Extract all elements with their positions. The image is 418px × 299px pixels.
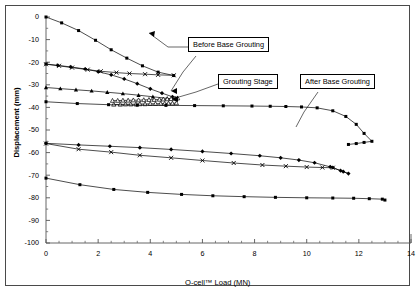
data-point xyxy=(109,73,113,77)
series-after xyxy=(45,177,387,202)
data-point xyxy=(136,104,139,107)
data-point xyxy=(110,48,113,51)
x-tick-label: 4 xyxy=(136,249,164,258)
series-after xyxy=(44,142,335,170)
data-point xyxy=(355,123,358,126)
data-point xyxy=(122,77,126,81)
series-line xyxy=(46,102,372,145)
data-point xyxy=(148,87,152,91)
data-point xyxy=(344,115,347,118)
data-point xyxy=(229,151,233,155)
data-point xyxy=(200,149,204,153)
data-point xyxy=(305,196,308,199)
series-before xyxy=(44,85,179,101)
data-point xyxy=(107,103,110,106)
data-point xyxy=(250,105,253,108)
x-tick-label: 0 xyxy=(32,249,60,258)
series-before xyxy=(44,62,175,99)
data-point xyxy=(363,141,366,144)
data-point xyxy=(352,197,355,200)
y-tick-label: -70 xyxy=(0,171,39,180)
x-axis-title: O-cell™ Load (MN) xyxy=(185,278,250,287)
x-tick-label: 14 xyxy=(397,249,418,258)
data-point xyxy=(125,57,128,60)
data-point xyxy=(284,105,287,108)
data-point xyxy=(60,21,63,24)
data-point xyxy=(78,183,81,186)
data-point xyxy=(164,104,167,107)
y-tick-label: -40 xyxy=(0,103,39,112)
chart-figure: O-cell™ Load (MN) Displacement (mm) Befo… xyxy=(0,0,418,299)
x-tick-label: 10 xyxy=(293,249,321,258)
data-point xyxy=(312,161,316,165)
data-point xyxy=(76,143,80,147)
y-tick-label: 0 xyxy=(0,12,39,21)
y-tick-label: -90 xyxy=(0,216,39,225)
data-point xyxy=(363,132,366,135)
data-point xyxy=(368,197,371,200)
data-point xyxy=(222,104,225,107)
y-tick-label: -20 xyxy=(0,58,39,67)
series-after xyxy=(45,100,374,146)
data-point xyxy=(331,109,334,112)
data-point xyxy=(135,82,139,86)
data-point xyxy=(112,188,115,191)
data-point xyxy=(77,29,80,32)
series-line xyxy=(46,64,172,97)
y-tick-label: -30 xyxy=(0,80,39,89)
data-point xyxy=(160,91,164,95)
series-line xyxy=(46,143,348,173)
leader-arrowhead-before-2 xyxy=(171,88,177,94)
data-point xyxy=(138,146,142,150)
x-tick-label: 2 xyxy=(84,249,112,258)
data-point xyxy=(279,156,283,160)
y-tick-label: -10 xyxy=(0,35,39,44)
data-point xyxy=(45,100,48,103)
data-point xyxy=(44,85,48,89)
x-tick-label: 8 xyxy=(241,249,269,258)
data-point xyxy=(243,195,246,198)
data-point xyxy=(383,199,386,202)
y-tick-label: -50 xyxy=(0,125,39,134)
data-point xyxy=(258,154,262,158)
annotation-grouting-stage: Grouting Stage xyxy=(218,74,278,89)
x-tick-label: 6 xyxy=(188,249,216,258)
y-tick-label: -80 xyxy=(0,193,39,202)
leader-grouting-stage xyxy=(172,84,218,99)
y-tick-label: -60 xyxy=(0,148,39,157)
data-point xyxy=(297,158,301,162)
data-point xyxy=(45,177,48,180)
leader-before-1 xyxy=(149,33,188,47)
data-point xyxy=(331,197,334,200)
series-before xyxy=(45,16,176,78)
data-point xyxy=(346,172,350,176)
data-point xyxy=(146,191,149,194)
series-after xyxy=(44,141,351,175)
data-point xyxy=(193,104,196,107)
data-point xyxy=(211,194,214,197)
data-point xyxy=(316,106,319,109)
leader-after xyxy=(296,92,318,127)
series-line xyxy=(46,144,333,168)
data-point xyxy=(141,64,144,67)
data-point xyxy=(274,196,277,199)
annotation-after-base-grouting: After Base Grouting xyxy=(300,74,375,89)
leader-before-2 xyxy=(171,56,196,91)
data-point xyxy=(94,39,97,42)
data-point xyxy=(45,16,48,19)
series-line xyxy=(46,88,176,100)
y-tick-label: -100 xyxy=(0,238,39,247)
data-point xyxy=(370,140,373,143)
data-point xyxy=(300,105,303,108)
data-point xyxy=(347,143,350,146)
series-line xyxy=(46,64,174,75)
data-point xyxy=(108,144,112,148)
data-point xyxy=(381,198,384,201)
data-point xyxy=(180,193,183,196)
data-point xyxy=(76,102,79,105)
data-point xyxy=(355,142,358,145)
annotation-before-base-grouting: Before Base Grouting xyxy=(188,37,269,52)
data-point xyxy=(269,105,272,108)
x-tick-label: 12 xyxy=(345,249,373,258)
data-point xyxy=(169,147,173,151)
